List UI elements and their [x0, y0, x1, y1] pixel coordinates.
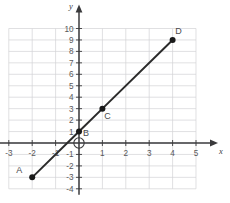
x-tick-label: 3 — [147, 149, 152, 158]
y-tick-label: -3 — [66, 173, 74, 182]
x-tick-label: 4 — [170, 149, 175, 158]
data-point-label: C — [104, 111, 111, 121]
y-tick-label: 1 — [69, 128, 74, 137]
data-point — [29, 174, 35, 180]
data-point-label: D — [175, 26, 182, 36]
x-tick-label: -2 — [29, 149, 37, 158]
y-tick-label: -2 — [66, 162, 74, 171]
y-tick-label: 9 — [69, 36, 74, 45]
data-point — [170, 37, 176, 43]
x-tick-label: 2 — [124, 149, 129, 158]
y-tick-label: 10 — [64, 25, 74, 34]
data-point-label: A — [16, 165, 22, 175]
graph-canvas: -3-2-11234510987654321-1-2-3-4 ABCD x y — [0, 0, 230, 203]
plot-background — [0, 0, 230, 203]
data-point — [76, 129, 82, 135]
coordinate-graph: -3-2-11234510987654321-1-2-3-4 ABCD x y — [0, 0, 230, 203]
x-tick-label: -3 — [5, 149, 13, 158]
y-tick-label: 3 — [69, 105, 74, 114]
y-tick-label: 6 — [69, 70, 74, 79]
x-tick-label: 1 — [100, 149, 105, 158]
y-tick-label: 4 — [69, 93, 74, 102]
y-tick-label: -4 — [66, 185, 74, 194]
y-tick-label: 7 — [69, 59, 74, 68]
x-tick-label: 5 — [194, 149, 199, 158]
y-tick-label: -1 — [66, 150, 74, 159]
x-axis-label: x — [218, 146, 223, 156]
y-tick-label: 2 — [69, 116, 74, 125]
y-axis-label: y — [68, 1, 73, 11]
y-tick-label: 8 — [69, 47, 74, 56]
data-point-label: B — [83, 128, 89, 138]
y-tick-label: 5 — [69, 82, 74, 91]
